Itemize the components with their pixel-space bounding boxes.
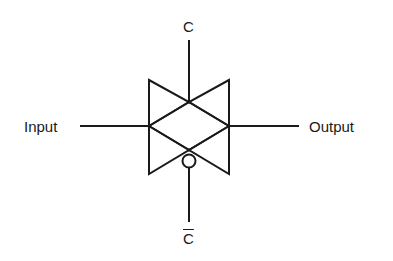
inversion-bubble-icon (183, 155, 196, 168)
diamond-upper-right (189, 102, 229, 126)
input-label: Input (24, 119, 57, 134)
lower-triangle-left (149, 126, 189, 174)
upper-triangle-left (149, 80, 189, 126)
upper-triangle-right (189, 80, 229, 126)
node-top (187, 100, 190, 103)
control-complement-label: C (183, 231, 194, 246)
control-label: C (183, 19, 194, 34)
lower-triangle-right (189, 126, 229, 174)
diamond-upper-left (149, 102, 189, 126)
node-left (147, 124, 150, 127)
output-label: Output (309, 119, 354, 134)
node-right (227, 124, 230, 127)
node-bottom (187, 148, 190, 151)
